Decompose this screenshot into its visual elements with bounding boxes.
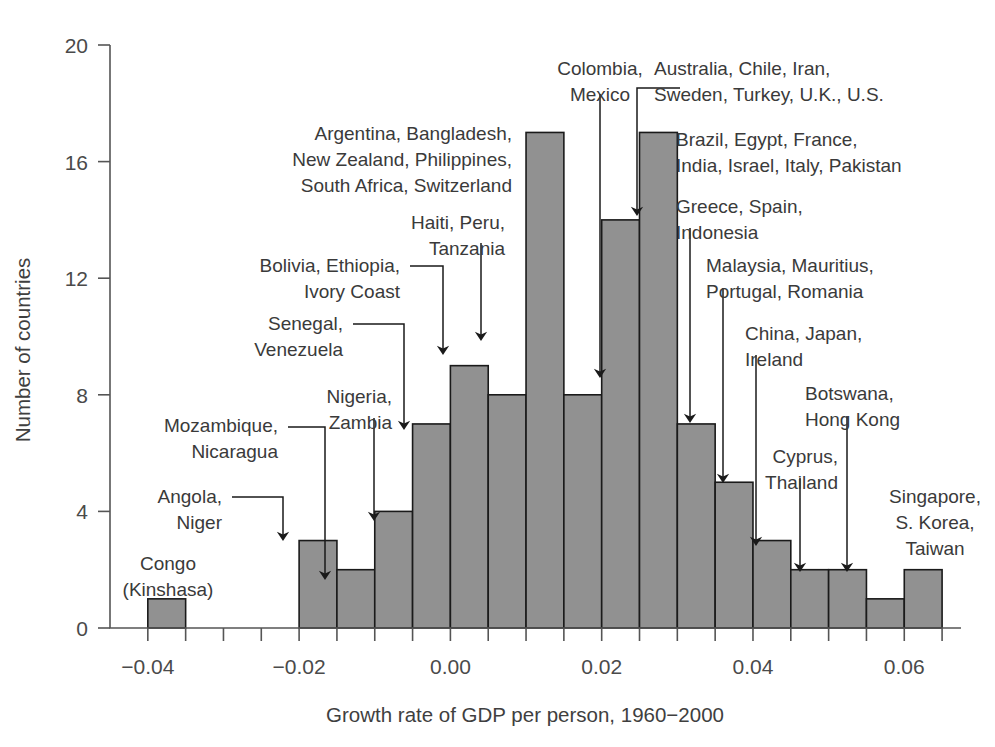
leader-senegal-venezuela [353,324,404,425]
callout-angola-niger: Angola,Niger [158,486,223,533]
callout-haiti-peru-tanzania: Haiti, Peru,Tanzania [411,212,505,259]
histogram-bar [753,541,791,628]
callout-australia-chile-iran: Australia, Chile, Iran,Sweden, Turkey, U… [654,58,884,105]
histogram-bar [829,570,867,628]
histogram-bar [488,395,526,628]
histogram-bar [715,482,753,628]
histogram-figure: 048121620−0.04−0.020.000.020.040.06 Cong… [0,0,995,747]
callout-cyprus-thailand: Cyprus,Thailand [765,446,838,493]
histogram-bar [602,220,640,628]
histogram-bar [526,132,564,628]
x-tick-label: 0.00 [430,655,471,678]
histogram-bar [337,570,375,628]
x-axis-title: Growth rate of GDP per person, 1960−2000 [326,703,724,726]
histogram-bar [413,424,451,628]
y-tick-label: 16 [65,151,88,174]
callout-botswana-hongkong: Botswana,Hong Kong [805,383,900,430]
callout-brazil-egypt-france: Brazil, Egypt, France,India, Israel, Ita… [676,129,902,176]
histogram-bar [299,541,337,628]
y-tick-label: 4 [76,500,88,523]
histogram-bar [904,570,942,628]
histogram-bar [677,424,715,628]
bars-group [148,132,942,628]
histogram-bar [375,511,413,628]
callout-senegal-venezuela: Senegal,Venezuela [254,313,343,360]
callout-congo: Congo(Kinshasa) [123,553,214,600]
callout-nigeria-zambia: Nigeria,Zambia [327,386,393,433]
x-tick-label: −0.02 [273,655,326,678]
callout-colombia-mexico: Colombia,Mexico [557,58,643,105]
callout-bolivia-ethiopia: Bolivia, Ethiopia,Ivory Coast [260,255,401,302]
callout-china-japan-ireland: China, Japan,Ireland [745,323,862,370]
y-axis-title: Number of countries [11,258,34,443]
histogram-bar [450,366,488,628]
y-tick-label: 20 [65,34,88,57]
chart-svg: 048121620−0.04−0.020.000.020.040.06 Cong… [0,0,995,747]
x-tick-label: 0.06 [884,655,925,678]
y-tick-label: 12 [65,267,88,290]
leader-angola-niger [232,497,283,536]
histogram-bar [791,570,829,628]
callout-singapore-skorea-taiwan: Singapore,S. Korea,Taiwan [889,486,981,559]
leader-bolivia-ethiopia [410,266,443,350]
histogram-bar [564,395,602,628]
y-tick-label: 0 [76,617,88,640]
x-tick-label: −0.04 [121,655,174,678]
callout-greece-spain-indonesia: Greece, Spain,Indonesia [676,196,803,243]
x-tick-label: 0.04 [733,655,774,678]
callout-argentina-bangladesh: Argentina, Bangladesh,New Zealand, Phili… [292,123,512,196]
y-tick-label: 8 [76,384,88,407]
histogram-bar [866,599,904,628]
callout-mozambique-nicaragua: Mozambique,Nicaragua [164,415,278,462]
histogram-bar [640,132,678,628]
histogram-bar [148,599,186,628]
x-tick-label: 0.02 [581,655,622,678]
callout-malaysia-mauritius: Malaysia, Mauritius,Portugal, Romania [706,255,874,302]
